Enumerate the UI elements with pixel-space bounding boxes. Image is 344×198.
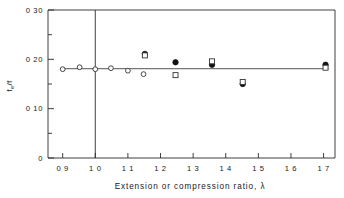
x-tick-label-1: 1 0: [89, 164, 101, 173]
x-tick-label-8: 1 7: [317, 164, 329, 173]
axis-ticks: [48, 10, 324, 158]
y-axis-title: fe/f: [5, 80, 15, 92]
data-point-open-square-2: [210, 59, 215, 64]
data-point-open-circle-5: [141, 72, 146, 77]
x-tick-label-5: 1 4: [220, 164, 232, 173]
x-axis-title: Extension or compression ratio, λ: [115, 182, 266, 191]
x-tick-label-3: 1 2: [154, 164, 166, 173]
data-point-open-circle-3: [109, 66, 114, 71]
data-point-open-square-3: [240, 80, 245, 85]
data-point-open-circle-1: [77, 65, 82, 70]
data-point-open-square-4: [323, 65, 328, 70]
axis-tick-labels: 00 100 200 300 91 01 11 21 31 41 51 61 7: [26, 6, 330, 173]
y-title-tail: /f: [5, 80, 14, 86]
y-tick-label-4: 0 20: [26, 55, 43, 64]
x-tick-label-0: 0 9: [56, 164, 68, 173]
chart-figure: 00 100 200 300 91 01 11 21 31 41 51 61 7…: [0, 0, 344, 198]
axis-top-right: [48, 10, 335, 158]
x-tick-label-2: 1 1: [122, 164, 134, 173]
x-tick-label-7: 1 6: [285, 164, 297, 173]
scatter-plot: 00 100 200 300 91 01 11 21 31 41 51 61 7…: [0, 0, 344, 198]
y-tick-label-6: 0 30: [26, 6, 43, 15]
x-tick-label-6: 1 5: [252, 164, 264, 173]
data-point-filled-circle-1: [173, 60, 178, 65]
x-tick-label-4: 1 3: [187, 164, 199, 173]
svg-text:fe/f: fe/f: [5, 80, 15, 92]
svg-text:Extension or compression ratio: Extension or compression ratio, λ: [115, 182, 266, 191]
axis-left-bottom: [48, 10, 335, 158]
plot-frame: [48, 10, 335, 158]
data-point-open-square-1: [173, 73, 178, 78]
data-point-open-square-0: [142, 53, 147, 58]
data-point-open-circle-2: [93, 67, 98, 72]
y-tick-label-2: 0 10: [26, 104, 43, 113]
data-point-open-circle-4: [126, 68, 131, 73]
y-tick-label-0: 0: [38, 154, 43, 163]
data-point-open-circle-0: [60, 67, 65, 72]
